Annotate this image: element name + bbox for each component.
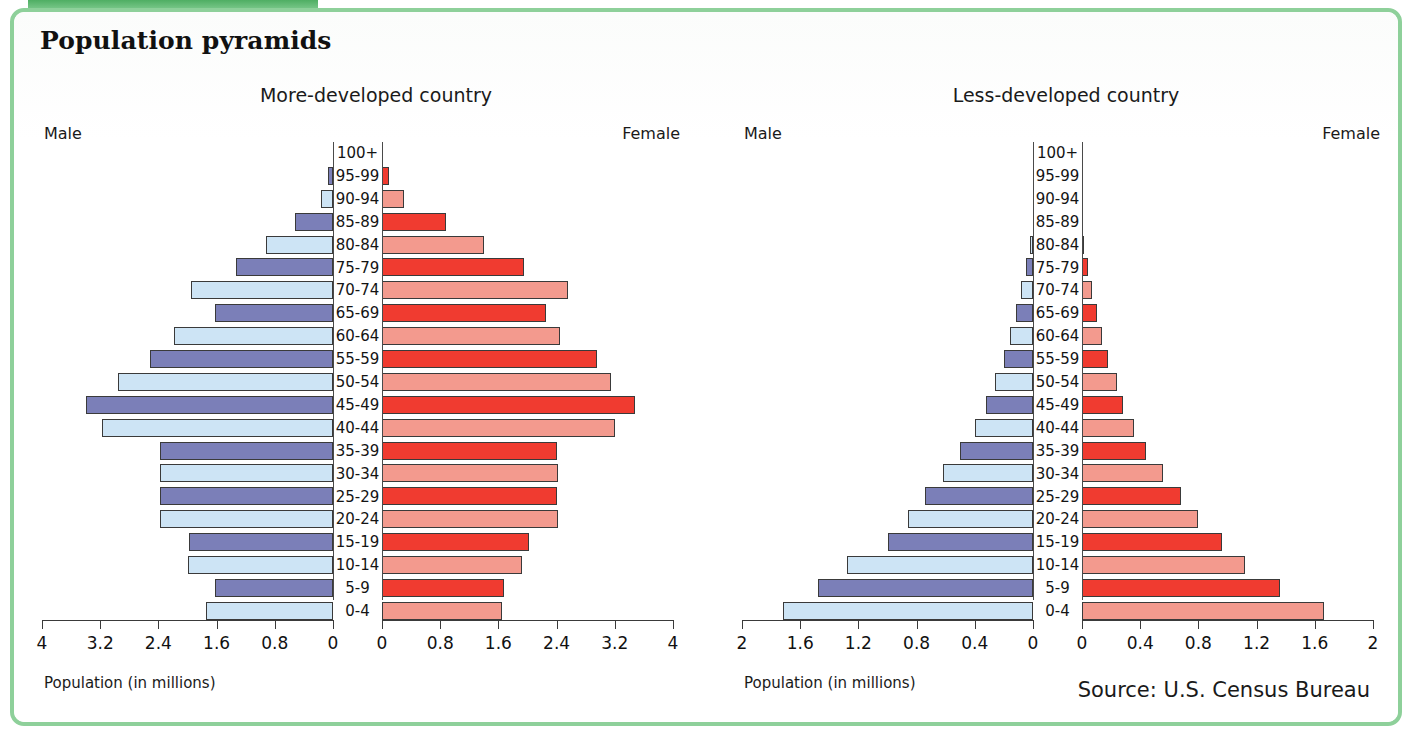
age-group-label: 100+: [333, 142, 382, 165]
pyramid-bar-row: [742, 508, 1033, 531]
age-group-label: 5-9: [1033, 577, 1082, 600]
pyramid-bar-row: [1082, 417, 1373, 440]
axis-rule: [742, 620, 1033, 621]
pyramid-bar-row: [42, 371, 333, 394]
axis-tick-label: 3.2: [87, 633, 114, 653]
pyramid-bar-row: [1082, 234, 1373, 257]
pyramid-bar-row: [1082, 188, 1373, 211]
age-group-label: 10-14: [333, 554, 382, 577]
chart-less-developed: Less-developed country Male Female 100+9…: [722, 84, 1394, 684]
age-group-label: 90-94: [333, 188, 382, 211]
axis-tick-label: 0: [1077, 633, 1088, 653]
pyramid-bar-row: [742, 577, 1033, 600]
pyramid-bar: [818, 579, 1033, 597]
pyramid-bar: [1082, 510, 1198, 528]
female-side-label: Female: [622, 124, 680, 143]
pyramid-bar-row: [742, 348, 1033, 371]
pyramid-bar-row: [1082, 577, 1373, 600]
pyramid-bar-row: [42, 211, 333, 234]
axis-tick: [42, 620, 43, 629]
pyramid-bar-row: [1082, 531, 1373, 554]
pyramid-bar-row: [742, 371, 1033, 394]
pyramid-bar-row: [42, 256, 333, 279]
plot-area: 100+95-9990-9485-8980-8475-7970-7465-696…: [722, 142, 1394, 620]
pyramid-bar: [236, 258, 333, 276]
age-group-labels: 100+95-9990-9485-8980-8475-7970-7465-696…: [1033, 142, 1082, 600]
pyramid-bar: [215, 579, 333, 597]
age-group-label: 60-64: [1033, 325, 1082, 348]
pyramid-bar: [382, 602, 502, 620]
pyramid-bar-row: [742, 440, 1033, 463]
x-axis-female: 00.40.81.21.62: [1082, 620, 1373, 664]
x-axis: 43.22.41.60.80 00.81.62.43.24: [22, 620, 694, 664]
pyramid-bar-row: [1082, 211, 1373, 234]
axis-tick-label: 2: [737, 633, 748, 653]
pyramid-bar-row: [1082, 371, 1373, 394]
pyramid-bar-row: [742, 531, 1033, 554]
axis-tick: [382, 620, 383, 629]
pyramid-bar: [382, 396, 635, 414]
age-group-label: 30-34: [333, 463, 382, 486]
age-group-label: 85-89: [1033, 211, 1082, 234]
axis-tick-label: 0.8: [427, 633, 454, 653]
axis-tick-label: 2.4: [543, 633, 570, 653]
pyramid-bar: [215, 304, 333, 322]
pyramid-bar-row: [42, 394, 333, 417]
pyramid-bar: [382, 281, 568, 299]
pyramid-bar: [382, 167, 389, 185]
pyramid-bar: [1021, 281, 1033, 299]
pyramid-bar: [102, 419, 333, 437]
pyramid-bar: [382, 510, 558, 528]
axis-tick-label: 0.8: [903, 633, 930, 653]
age-group-label: 45-49: [333, 394, 382, 417]
pyramid-bar: [943, 464, 1033, 482]
x-axis-female: 00.81.62.43.24: [382, 620, 673, 664]
pyramid-bar-row: [382, 462, 673, 485]
male-bars: [42, 142, 333, 600]
pyramid-bar-row: [382, 508, 673, 531]
pyramid-bar: [382, 258, 524, 276]
pyramid-bar-row: [742, 394, 1033, 417]
pyramid-bar-row: [42, 302, 333, 325]
male-bars: [742, 142, 1033, 600]
pyramid-bar: [382, 327, 560, 345]
axis-tick-label: 1.2: [845, 633, 872, 653]
pyramid-bar-row: [382, 554, 673, 577]
pyramid-bar: [1004, 350, 1033, 368]
pyramid-bar-row: [742, 554, 1033, 577]
pyramid-bar: [1082, 350, 1108, 368]
pyramid-bar-row: [1082, 485, 1373, 508]
pyramid-bar-row: [1082, 256, 1373, 279]
axis-line-male: [1033, 142, 1034, 600]
axis-tick-label: 0: [1028, 633, 1039, 653]
pyramid-bar-row: [42, 234, 333, 257]
pyramid-bar-row: [42, 440, 333, 463]
pyramid-bar-row: [382, 577, 673, 600]
pyramid-bar: [191, 281, 333, 299]
pyramid-bar-row: [742, 279, 1033, 302]
age-group-label: 40-44: [333, 417, 382, 440]
axis-tick: [1082, 620, 1083, 629]
axis-tick: [917, 620, 918, 629]
pyramid-bar-row: [382, 371, 673, 394]
axis-line-female: [382, 142, 383, 600]
source-credit: Source: U.S. Census Bureau: [1078, 678, 1370, 702]
pyramid-bar: [995, 373, 1033, 391]
pyramid-bar-row: [742, 462, 1033, 485]
pyramid-bar: [382, 236, 484, 254]
age-group-label: 65-69: [333, 302, 382, 325]
pyramid-bar-row: [382, 279, 673, 302]
pyramid-bar: [382, 556, 522, 574]
age-group-label: 95-99: [333, 165, 382, 188]
pyramid-bar: [160, 510, 333, 528]
age-group-label: 35-39: [333, 440, 382, 463]
pyramid-bar-row: [742, 234, 1033, 257]
plot-area: 100+95-9990-9485-8980-8475-7970-7465-696…: [22, 142, 694, 620]
pyramid-bar-row: [42, 279, 333, 302]
pyramid-bar-row: [1082, 142, 1373, 165]
axis-tick-label: 2.4: [145, 633, 172, 653]
pyramid-bar-row: [742, 417, 1033, 440]
pyramid-bar: [382, 373, 611, 391]
pyramid-bar-row: [742, 325, 1033, 348]
pyramid-bar-row: [1082, 165, 1373, 188]
